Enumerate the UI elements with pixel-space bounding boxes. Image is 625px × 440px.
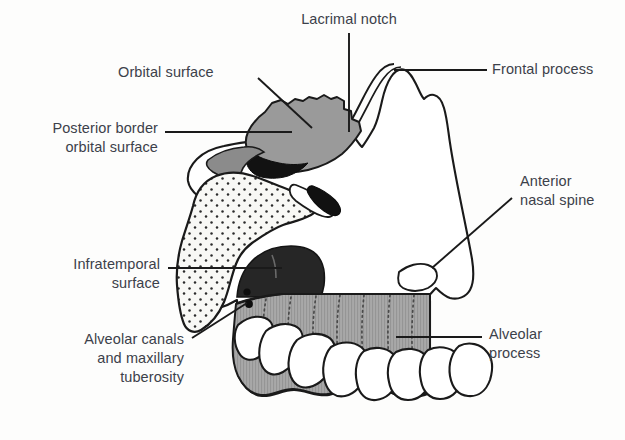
maxilla-diagram: Orbital surface Lacrimal notch Frontal p… — [0, 0, 625, 440]
tooth — [449, 344, 491, 397]
label-infratemporal-surface: Infratemporal surface — [38, 255, 160, 293]
label-alveolar-canals-maxillary-tuberosity: Alveolar canals and maxillary tuberosity — [36, 330, 184, 387]
anterior-nasal-spine-contour — [398, 264, 437, 291]
label-orbital-surface: Orbital surface — [118, 63, 268, 82]
label-frontal-process: Frontal process — [492, 60, 622, 79]
label-posterior-border-orbital-surface: Posterior border orbital surface — [18, 119, 158, 157]
label-alveolar-process: Alveolar process — [489, 325, 589, 363]
label-anterior-nasal-spine: Anterior nasal spine — [520, 172, 620, 210]
label-lacrimal-notch: Lacrimal notch — [282, 10, 416, 29]
